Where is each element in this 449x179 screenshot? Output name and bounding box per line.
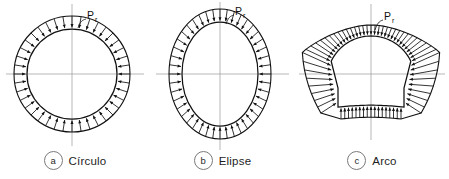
pressure-label-arco: P (384, 10, 391, 22)
panel-tag-a: a (44, 151, 63, 170)
panel-label-circulo: Círculo (69, 155, 107, 167)
caption-circulo: a Círculo (0, 151, 150, 170)
caption-arco: c Arco (295, 151, 449, 170)
axes-arco (299, 4, 445, 140)
panel-elipse: P r b Elipse (150, 0, 295, 179)
pressure-distribution-figure: P r a Círculo P r b Elipse (0, 0, 449, 179)
pressure-subscript-arco: r (392, 17, 395, 24)
panel-tag-c: c (347, 151, 366, 170)
panel-label-arco: Arco (372, 155, 396, 167)
caption-elipse: b Elipse (150, 151, 295, 170)
panel-arco: P r c Arco (295, 0, 449, 179)
pressure-label-circulo: P (87, 9, 94, 21)
axes-elipse (156, 2, 289, 150)
pressure-label-elipse: P (235, 5, 242, 17)
panel-tag-b: b (194, 151, 213, 170)
panel-circulo: P r a Círculo (0, 0, 150, 179)
panel-label-elipse: Elipse (219, 155, 252, 167)
